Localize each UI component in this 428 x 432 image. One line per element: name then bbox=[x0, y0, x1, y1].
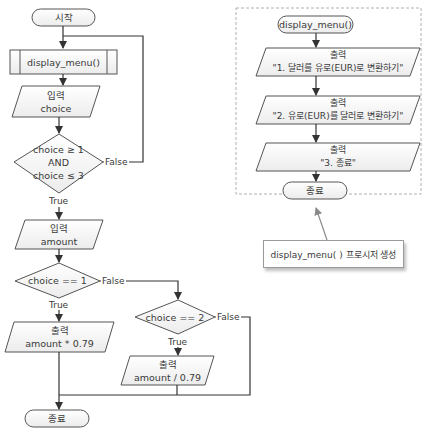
end-text: 종료 bbox=[48, 412, 66, 425]
proc-output-3-label: 출력 "3. 종료" bbox=[256, 143, 420, 171]
proc-start-text: display_menu() bbox=[279, 18, 352, 31]
output-text: "3. 종료" bbox=[320, 157, 356, 170]
start-text: 시작 bbox=[55, 11, 73, 24]
output-text: "1. 달러를 유로(EUR)로 변환하기" bbox=[273, 62, 404, 75]
output-mul-label: 출력 amount * 0.79 bbox=[5, 322, 114, 352]
input-keyword: 입력 bbox=[47, 89, 65, 102]
output-keyword: 출력 bbox=[330, 144, 346, 157]
output-keyword: 출력 bbox=[330, 97, 346, 110]
input-var: choice bbox=[41, 102, 72, 115]
procedure-callout: display_menu( ) 프로시저 생성 bbox=[263, 240, 404, 268]
cond-text: choice == 2 bbox=[146, 311, 205, 324]
input-var: amount bbox=[41, 235, 78, 248]
output-div-label: 출력 amount / 0.79 bbox=[121, 356, 214, 385]
proc-output-1-label: 출력 "1. 달러를 유로(EUR)로 변환하기" bbox=[256, 48, 420, 76]
end-label: 종료 bbox=[25, 410, 89, 427]
cond-line2: AND bbox=[48, 156, 69, 169]
start-label: 시작 bbox=[32, 9, 95, 26]
proc-start-label: display_menu() bbox=[278, 16, 353, 33]
choice2-true-label: True bbox=[167, 337, 188, 347]
choice1-true-label: True bbox=[48, 300, 69, 310]
input-choice-label: 입력 choice bbox=[12, 86, 100, 117]
input-amount-label: 입력 amount bbox=[15, 220, 103, 249]
cond-line3: choice ≤ 3 bbox=[33, 169, 84, 182]
proc-end-text: 종료 bbox=[306, 184, 324, 197]
output-keyword: 출력 bbox=[51, 324, 69, 337]
range-false-label: False bbox=[104, 157, 129, 167]
cond-line1: choice ≥ 1 bbox=[33, 143, 84, 156]
decision-choice1-label: choice == 1 bbox=[15, 263, 100, 298]
callout-text: display_menu( ) 프로시저 생성 bbox=[271, 248, 397, 261]
range-true-label: True bbox=[48, 196, 69, 206]
choice2-false-label: False bbox=[216, 312, 241, 322]
output-keyword: 출력 bbox=[159, 358, 177, 371]
output-keyword: 출력 bbox=[330, 49, 346, 62]
display-menu-call-text: display_menu() bbox=[27, 56, 100, 69]
output-text: "2. 유로(EUR)를 달러로 변환하기" bbox=[273, 110, 404, 123]
input-keyword: 입력 bbox=[50, 222, 68, 235]
proc-output-2-label: 출력 "2. 유로(EUR)를 달러로 변환하기" bbox=[256, 96, 420, 124]
cond-text: choice == 1 bbox=[28, 274, 87, 287]
decision-range-label: choice ≥ 1 AND choice ≤ 3 bbox=[14, 140, 103, 184]
choice1-false-label: False bbox=[101, 276, 126, 286]
proc-end-label: 종료 bbox=[283, 182, 347, 199]
output-expr: amount / 0.79 bbox=[134, 371, 201, 384]
display-menu-call-label: display_menu() bbox=[20, 50, 107, 74]
output-expr: amount * 0.79 bbox=[25, 337, 94, 350]
decision-choice2-label: choice == 2 bbox=[135, 300, 215, 334]
